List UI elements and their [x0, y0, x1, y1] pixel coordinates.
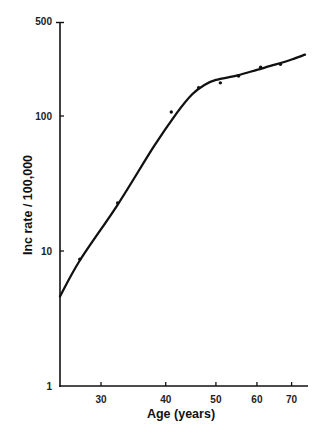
x-tick-label: 50 — [210, 394, 222, 405]
y-tick-label: 100 — [35, 111, 52, 122]
y-tick-label: 500 — [35, 16, 52, 27]
x-tick-label: 70 — [286, 394, 298, 405]
data-point — [279, 62, 282, 65]
observed-data-points — [78, 62, 282, 260]
data-point — [170, 110, 173, 113]
x-axis-title: Age (years) — [147, 407, 215, 421]
chart-canvas: 110100500 3040506070 Age (years) Inc rat… — [0, 0, 320, 437]
x-tick-label: 40 — [160, 394, 172, 405]
y-axis-title: Inc rate / 100,000 — [21, 155, 35, 255]
y-tick-label: 10 — [41, 246, 53, 257]
data-point — [237, 74, 240, 77]
data-point — [259, 65, 262, 68]
x-tick-label: 30 — [95, 394, 107, 405]
axes — [56, 22, 308, 387]
data-point — [197, 86, 200, 89]
data-point — [78, 257, 81, 260]
y-tick-label: 1 — [46, 381, 52, 392]
data-point — [219, 81, 222, 84]
x-tick-label: 60 — [251, 394, 263, 405]
fitted-curve-line — [60, 55, 305, 297]
data-point — [116, 201, 119, 204]
